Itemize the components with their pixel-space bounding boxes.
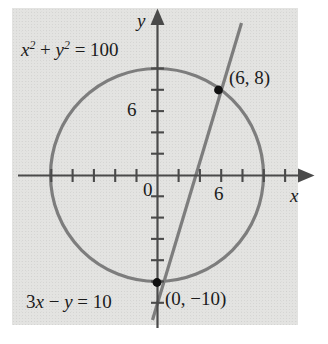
y-axis-label: y <box>137 11 145 30</box>
line-eq-minus: − <box>44 291 64 312</box>
circle-eq-equals: = 100 <box>70 39 119 60</box>
circle-eq-plus: + <box>35 39 55 60</box>
line-eq-var-x: x <box>36 291 44 312</box>
point-label-6-8: (6, 8) <box>229 68 270 87</box>
x-axis-tick-label-6: 6 <box>214 184 224 203</box>
circle-equation-label: x2 + y2 = 100 <box>21 40 119 59</box>
point-marker-0-neg10 <box>153 278 162 287</box>
line-equation-label: 3x − y = 10 <box>26 292 112 311</box>
point-label-0-neg10: (0, −10) <box>165 289 226 308</box>
graph-figure: x2 + y2 = 100 3x − y = 10 (6, 8) (0, −10… <box>0 0 328 344</box>
origin-label: 0 <box>143 180 153 199</box>
line-eq-coefficient: 3 <box>26 291 36 312</box>
point-marker-6-8 <box>214 86 223 95</box>
y-axis-tick-label-6: 6 <box>127 100 137 119</box>
circle-eq-var-y: y <box>56 39 64 60</box>
line-eq-equals: = 10 <box>73 291 112 312</box>
line-eq-var-y: y <box>64 291 72 312</box>
x-axis-label: x <box>290 186 298 205</box>
